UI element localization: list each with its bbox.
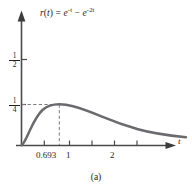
y-tick-label-one-half: 1 2	[9, 52, 20, 69]
figure-panel: r(t) = e-t − e-2t 1 2 1 4 0.693 1 2 t (a…	[0, 0, 192, 193]
equation-equals: =	[56, 8, 61, 18]
plot-canvas	[0, 0, 192, 193]
y-tick-quarter-numerator: 1	[9, 97, 20, 105]
x-axis	[16, 142, 176, 149]
equation-label: r(t) = e-t − e-2t	[40, 8, 94, 18]
y-tick-half-numerator: 1	[9, 52, 20, 60]
y-tick-quarter-denominator: 4	[9, 106, 20, 114]
y-axis	[18, 11, 26, 146]
equation-paren-close: )	[50, 8, 53, 18]
x-tick-label-2: 2	[110, 150, 115, 160]
y-axis-ticks	[22, 60, 28, 105]
x-tick-label-1: 1	[66, 150, 71, 160]
x-axis-ticks	[44, 141, 137, 146]
x-tick-label-0693: 0.693	[36, 150, 56, 160]
y-tick-label-one-quarter: 1 4	[9, 97, 20, 114]
y-tick-half-denominator: 2	[9, 61, 20, 69]
equation-minus: −	[75, 8, 80, 18]
equation-exponent-2: -2t	[87, 6, 95, 13]
figure-caption: (a)	[0, 172, 192, 182]
equation-exponent-1: -t	[68, 6, 72, 13]
curve-rt	[22, 104, 186, 145]
x-axis-name-label: t	[178, 136, 181, 146]
